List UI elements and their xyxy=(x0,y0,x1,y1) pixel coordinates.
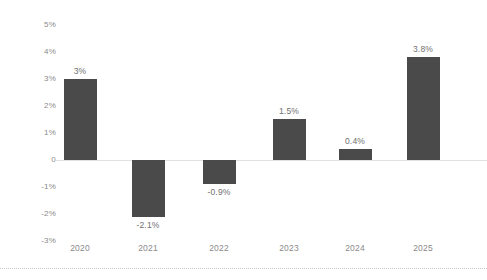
y-axis-tick-label: 5% xyxy=(16,21,56,29)
plot-area: 5% 4% 3% 2% 1% 0 -1% -2% -3% 3% -2.1% -0… xyxy=(0,0,487,280)
bar-2022 xyxy=(203,160,236,184)
bar-2020 xyxy=(64,79,97,160)
y-axis-tick-label: 3% xyxy=(16,75,56,83)
bar-2021 xyxy=(132,160,165,217)
bar-2023 xyxy=(273,119,306,160)
zero-baseline xyxy=(56,160,487,161)
x-axis-tick-label-2021: 2021 xyxy=(118,244,178,253)
y-axis-tick-label: 0 xyxy=(16,156,56,164)
bar-value-label-2025: 3.8% xyxy=(393,45,453,54)
x-axis-tick-label-2023: 2023 xyxy=(259,244,319,253)
x-axis-tick-label-2022: 2022 xyxy=(189,244,249,253)
bar-value-label-2022: -0.9% xyxy=(189,188,249,197)
bar-2024 xyxy=(339,149,372,160)
y-axis-tick-label: 2% xyxy=(16,102,56,110)
bar-chart: 5% 4% 3% 2% 1% 0 -1% -2% -3% 3% -2.1% -0… xyxy=(0,0,487,280)
y-axis-tick-label: -2% xyxy=(16,210,56,218)
y-axis-tick-label: 4% xyxy=(16,48,56,56)
x-axis-tick-label-2025: 2025 xyxy=(393,244,453,253)
x-axis-tick-label-2020: 2020 xyxy=(50,244,110,253)
bar-value-label-2021: -2.1% xyxy=(118,221,178,230)
bar-value-label-2020: 3% xyxy=(50,67,110,76)
bar-value-label-2023: 1.5% xyxy=(259,107,319,116)
y-axis-tick-label: 1% xyxy=(16,129,56,137)
x-axis-tick-label-2024: 2024 xyxy=(325,244,385,253)
bottom-divider xyxy=(0,268,487,270)
bar-value-label-2024: 0.4% xyxy=(325,137,385,146)
bar-2025 xyxy=(407,57,440,160)
y-axis-tick-label: -1% xyxy=(16,183,56,191)
